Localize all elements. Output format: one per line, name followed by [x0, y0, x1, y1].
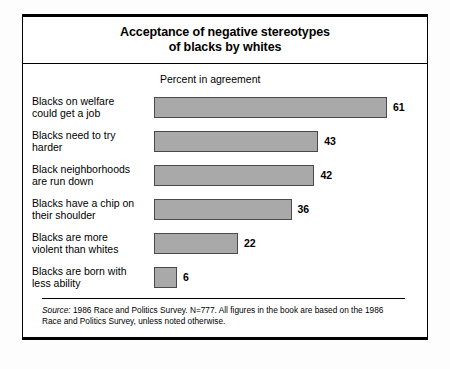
bar-rect	[154, 199, 292, 220]
table-row: Blacks need to try harder 43	[32, 124, 415, 158]
bar-category-label-line: Blacks are more	[32, 231, 150, 244]
bar-value-label: 22	[244, 237, 256, 249]
bar-category-label-line: their shoulder	[32, 209, 150, 222]
page-title-line-2: of blacks by whites	[37, 40, 413, 55]
bar-category-label: Blacks need to try harder	[32, 129, 154, 154]
bar-rect	[154, 97, 387, 118]
bar-rect	[154, 131, 318, 152]
bar-category-label-line: Blacks on welfare	[32, 95, 150, 108]
source-label: Source:	[42, 305, 71, 315]
source-text: 1986 Race and Politics Survey. N=777. Al…	[42, 305, 383, 326]
table-row: Blacks on welfare could get a job 61	[32, 90, 415, 124]
bar-area: 6	[154, 260, 415, 294]
table-row: Blacks are born with less ability 6	[32, 260, 415, 294]
table-row: Blacks are more violent than whites 22	[32, 226, 415, 260]
figure-frame: Acceptance of negative stereotypes of bl…	[22, 14, 428, 340]
bar-category-label-line: less ability	[32, 277, 150, 290]
bar-rect	[154, 267, 177, 288]
bar-category-label-line: harder	[32, 141, 150, 154]
bar-value-label: 61	[393, 101, 405, 113]
bar-category-label: Blacks are more violent than whites	[32, 231, 154, 256]
table-row: Black neighborhoods are run down 42	[32, 158, 415, 192]
bar-chart-rows: Blacks on welfare could get a job 61 Bla…	[32, 90, 415, 294]
chart-body: Percent in agreement Blacks on welfare c…	[23, 64, 427, 327]
bar-value-label: 42	[320, 169, 332, 181]
bar-category-label-line: Black neighborhoods	[32, 163, 150, 176]
bar-category-label: Blacks are born with less ability	[32, 265, 154, 290]
x-axis-label: Percent in agreement	[160, 73, 415, 85]
bar-area: 61	[154, 90, 415, 124]
bar-area: 42	[154, 158, 415, 192]
page-title-line-1: Acceptance of negative stereotypes	[37, 25, 413, 40]
bar-value-label: 36	[298, 203, 310, 215]
bar-value-label: 6	[183, 271, 189, 283]
bar-value-label: 43	[324, 135, 336, 147]
bar-area: 22	[154, 226, 415, 260]
bar-category-label-line: Blacks have a chip on	[32, 197, 150, 210]
bar-category-label: Black neighborhoods are run down	[32, 163, 154, 188]
bar-area: 36	[154, 192, 415, 226]
bar-category-label-line: Blacks are born with	[32, 265, 150, 278]
figure-page: Acceptance of negative stereotypes of bl…	[0, 0, 450, 369]
bar-category-label: Blacks have a chip on their shoulder	[32, 197, 154, 222]
table-row: Blacks have a chip on their shoulder 36	[32, 192, 415, 226]
source-note: Source: 1986 Race and Politics Survey. N…	[32, 299, 415, 327]
bar-rect	[154, 233, 238, 254]
figure-title-block: Acceptance of negative stereotypes of bl…	[23, 17, 427, 64]
bar-category-label-line: could get a job	[32, 107, 150, 120]
bar-rect	[154, 165, 314, 186]
bar-category-label-line: violent than whites	[32, 243, 150, 256]
bar-area: 43	[154, 124, 415, 158]
bar-category-label-line: Blacks need to try	[32, 129, 150, 142]
bar-category-label-line: are run down	[32, 175, 150, 188]
bar-category-label: Blacks on welfare could get a job	[32, 95, 154, 120]
